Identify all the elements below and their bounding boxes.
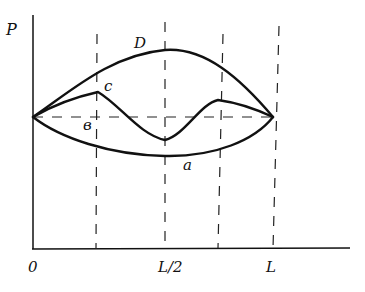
- curve-d-label: D: [133, 34, 146, 52]
- curve-a-label: a: [183, 156, 192, 174]
- curve-d: [33, 50, 273, 117]
- x-axis: [32, 248, 350, 249]
- x-tick-origin: 0: [28, 258, 38, 276]
- dashed-guide-end: [273, 26, 279, 249]
- x-tick-half: L/2: [157, 258, 183, 276]
- curve-c-label: c: [104, 77, 113, 95]
- curve-b-label: в: [83, 116, 92, 134]
- x-tick-end: L: [265, 258, 276, 276]
- y-axis-label: P: [5, 20, 17, 39]
- pressure-distribution-diagram: P 0 L/2 L D c в a: [0, 0, 365, 292]
- curve-c: [33, 92, 273, 140]
- dashed-guide-quarter: [96, 34, 97, 249]
